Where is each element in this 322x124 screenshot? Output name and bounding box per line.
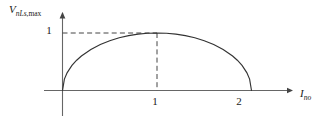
y-tick-label-1: 1 bbox=[42, 25, 56, 36]
x-tick-label-1: 1 bbox=[148, 96, 162, 107]
y-axis-label-sub-italic: nLs bbox=[16, 9, 27, 18]
x-tick-label-2: 2 bbox=[232, 96, 246, 107]
y-axis-label-main: V bbox=[9, 3, 16, 15]
y-axis-label: VnLs,max bbox=[9, 4, 41, 15]
x-axis-label-sub-italic: no bbox=[304, 93, 312, 102]
y-axis-label-sub-upright: ,max bbox=[27, 9, 42, 18]
figure-container: VnLs,max Ino 1 1 2 bbox=[0, 0, 322, 124]
x-axis-label: Ino bbox=[300, 88, 311, 99]
